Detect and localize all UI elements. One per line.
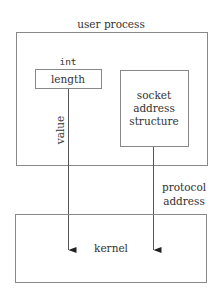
- kernel-box: kernel: [16, 215, 207, 283]
- socket-label-line-1: socket: [137, 89, 172, 101]
- length-type-label: int: [59, 56, 76, 67]
- diagram-canvas: user process int length socket address s…: [0, 0, 219, 298]
- kernel-label: kernel: [94, 242, 129, 254]
- protocol-address-label-line-1: protocol: [162, 181, 207, 193]
- value-arrow: value: [54, 89, 69, 250]
- user-process-box: user process: [17, 18, 208, 166]
- socket-label-line-3: structure: [129, 115, 179, 127]
- protocol-address-label-line-2: address: [163, 195, 205, 207]
- protocol-address-arrow: protocol address: [154, 147, 207, 250]
- socket-address-structure: socket address structure: [121, 71, 189, 147]
- user-process-label: user process: [77, 18, 145, 30]
- value-label: value: [54, 116, 66, 146]
- length-label: length: [51, 73, 85, 85]
- socket-label-line-2: address: [133, 102, 175, 114]
- length-field: int length: [36, 56, 102, 89]
